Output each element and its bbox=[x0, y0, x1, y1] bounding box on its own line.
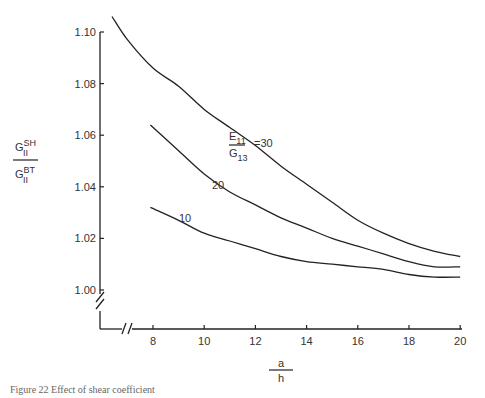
x-tick-label: 18 bbox=[403, 335, 415, 347]
curve-series-10 bbox=[150, 207, 460, 277]
x-tick-label: 20 bbox=[454, 335, 466, 347]
svg-text:II: II bbox=[23, 175, 28, 185]
y-tick-label: 1.02 bbox=[75, 232, 96, 244]
svg-text:a: a bbox=[278, 357, 285, 369]
svg-text:II: II bbox=[23, 148, 28, 158]
x-axis-title: a h bbox=[269, 357, 293, 384]
y-tick-label: 1.00 bbox=[75, 284, 96, 296]
ratio-label-30: E11 G13 =30 bbox=[229, 130, 273, 163]
x-tick-label: 14 bbox=[300, 335, 312, 347]
x-tick-label: 12 bbox=[249, 335, 261, 347]
ratio-bottom: G13 bbox=[229, 147, 248, 163]
curves bbox=[112, 17, 460, 278]
x-tick-label: 10 bbox=[198, 335, 210, 347]
curve-label-10: 10 bbox=[179, 212, 191, 224]
axes: 1.001.021.041.061.081.10 8101214161820 bbox=[75, 26, 467, 347]
svg-text:h: h bbox=[278, 372, 284, 384]
y-axis-title: GSH II GBT II bbox=[13, 138, 38, 185]
y-tick-label: 1.06 bbox=[75, 129, 96, 141]
ratio-value: =30 bbox=[254, 137, 273, 149]
y-tick-label: 1.04 bbox=[75, 181, 96, 193]
figure-caption: Figure 22 Effect of shear coefficient bbox=[10, 384, 155, 395]
y-tick-label: 1.08 bbox=[75, 78, 96, 90]
y-tick-label: 1.10 bbox=[75, 26, 96, 38]
curve-label-20: 20 bbox=[212, 179, 224, 191]
y-axis-break-icon bbox=[96, 292, 104, 309]
x-tick-label: 8 bbox=[150, 335, 156, 347]
chart: 1.001.021.041.061.081.10 8101214161820 E… bbox=[0, 0, 485, 398]
x-tick-label: 16 bbox=[352, 335, 364, 347]
x-axis-break-icon bbox=[122, 323, 132, 334]
x-ticks: 8101214161820 bbox=[150, 325, 466, 347]
